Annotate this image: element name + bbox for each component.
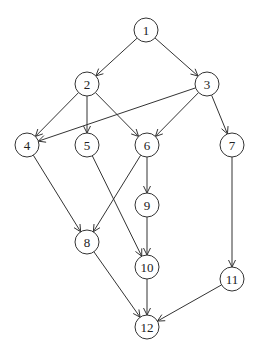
edge-line [212, 95, 228, 134]
edge-4-to-8 [33, 155, 80, 232]
edge-2-to-5 [84, 96, 91, 133]
edge-10-to-12 [144, 279, 151, 315]
node-label: 8 [84, 235, 91, 250]
node-label: 11 [226, 272, 239, 287]
edge-1-to-3 [155, 38, 198, 76]
node-10: 10 [135, 255, 159, 279]
node-4: 4 [15, 133, 39, 157]
edge-line [38, 88, 195, 141]
node-6: 6 [135, 133, 159, 157]
dag-diagram: 123456798101112 [0, 0, 259, 357]
node-label: 10 [141, 260, 154, 275]
node-5: 5 [75, 133, 99, 157]
arrowhead-icon [93, 224, 100, 232]
edge-1-to-2 [96, 38, 137, 76]
edge-line [157, 285, 221, 321]
edge-11-to-12 [157, 285, 221, 321]
node-label: 9 [144, 198, 151, 213]
node-3: 3 [195, 72, 219, 96]
node-label: 5 [84, 138, 91, 153]
edge-3-to-7 [212, 95, 228, 134]
node-8: 8 [75, 230, 99, 254]
nodes-layer: 123456798101112 [15, 18, 244, 339]
edge-5-to-10 [92, 156, 141, 256]
edge-line [93, 155, 140, 232]
node-7: 7 [220, 133, 244, 157]
edge-line [96, 38, 137, 76]
node-label: 12 [141, 320, 154, 335]
node-12: 12 [135, 315, 159, 339]
node-1: 1 [134, 18, 158, 42]
edge-6-to-8 [93, 155, 140, 232]
edge-8-to-12 [94, 252, 140, 317]
node-11: 11 [220, 267, 244, 291]
node-label: 2 [84, 77, 91, 92]
edge-6-to-9 [144, 157, 151, 193]
edge-line [92, 156, 141, 256]
node-label: 1 [143, 23, 150, 38]
edge-line [155, 38, 198, 76]
edge-line [94, 252, 140, 317]
node-label: 3 [204, 77, 211, 92]
node-2: 2 [75, 72, 99, 96]
node-label: 4 [24, 138, 31, 153]
edge-7-to-11 [229, 157, 236, 267]
node-label: 7 [229, 138, 236, 153]
arrowhead-icon [74, 224, 81, 232]
edge-line [33, 155, 80, 232]
node-label: 6 [144, 138, 151, 153]
graph-svg: 123456798101112 [0, 0, 259, 357]
edge-9-to-10 [144, 217, 151, 255]
node-9: 9 [135, 193, 159, 217]
